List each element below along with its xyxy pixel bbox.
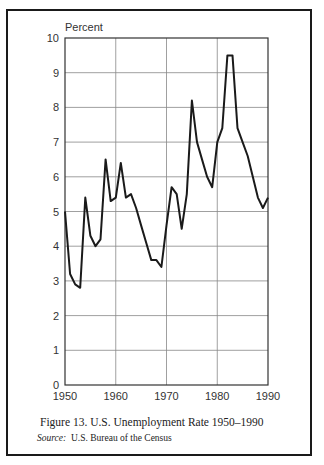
y-tick-label: 4 <box>53 240 59 252</box>
x-axis-ticks: 19501960197019801990 <box>53 390 280 402</box>
y-tick-label: 8 <box>53 101 59 113</box>
y-tick-label: 7 <box>53 136 59 148</box>
y-axis-ticks: 012345678910 <box>47 32 59 391</box>
chart-grid <box>65 38 268 385</box>
y-tick-label: 9 <box>53 67 59 79</box>
y-tick-label: 6 <box>53 171 59 183</box>
y-tick-label: 2 <box>53 310 59 322</box>
x-tick-label: 1980 <box>205 390 229 402</box>
x-tick-label: 1990 <box>256 390 280 402</box>
unemployment-line-chart: 012345678910 19501960197019801990 Percen… <box>0 0 324 465</box>
y-tick-label: 10 <box>47 32 59 44</box>
source-text: U.S. Bureau of the Census <box>71 433 172 443</box>
y-tick-label: 3 <box>53 275 59 287</box>
y-tick-label: 5 <box>53 206 59 218</box>
y-axis-label: Percent <box>65 21 103 33</box>
x-tick-label: 1960 <box>104 390 128 402</box>
figure-caption: Figure 13. U.S. Unemployment Rate 1950–1… <box>40 416 320 428</box>
x-tick-label: 1950 <box>53 390 77 402</box>
x-tick-label: 1970 <box>154 390 178 402</box>
y-tick-label: 1 <box>53 344 59 356</box>
source-label: Source: <box>37 433 66 443</box>
figure-source: Source: U.S. Bureau of the Census <box>37 433 317 443</box>
